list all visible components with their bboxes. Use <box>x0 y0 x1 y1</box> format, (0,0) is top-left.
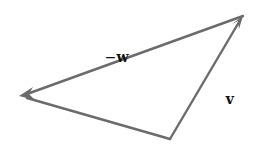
label-v: v <box>216 78 234 106</box>
label-v-minus-w-left: v <box>66 144 74 149</box>
vector-triangle-diagram <box>0 0 260 149</box>
label-v-minus-w: v − w <box>56 131 89 149</box>
label-neg-w-var: w <box>116 49 128 65</box>
label-v-var: v <box>226 91 234 107</box>
vector-neg-w <box>19 16 243 100</box>
label-neg-w: −w <box>95 36 129 64</box>
vector-v-minus-w <box>27 98 170 139</box>
label-neg-w-minus: − <box>105 49 117 65</box>
